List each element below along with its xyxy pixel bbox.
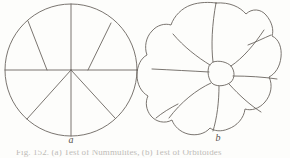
panel-b-suture-upper-left bbox=[173, 34, 210, 65]
panel-b-suture-lower-left bbox=[169, 83, 211, 118]
figure-page: a b Fig. 152. (a) Test of Nummulites, (b… bbox=[0, 0, 290, 158]
panel-b-suture-left bbox=[152, 69, 209, 72]
panel-a-drawing bbox=[5, 4, 137, 136]
panel-b-suture-bottom bbox=[213, 86, 219, 131]
panel-a-suture-lower-right bbox=[71, 70, 115, 118]
panel-a-label: a bbox=[61, 134, 81, 145]
panel-b-drawing bbox=[137, 2, 281, 134]
panel-b-suture-top bbox=[212, 3, 216, 62]
panel-b-label: b bbox=[208, 132, 228, 143]
figure-illustration bbox=[0, 0, 290, 158]
caption-clip: Fig. 152. (a) Test of Nummulites, (b) Te… bbox=[0, 150, 290, 158]
panel-b-suture-upper-right bbox=[231, 30, 264, 66]
panel-b-central-chamber bbox=[208, 61, 234, 86]
panel-a-suture-lower-left bbox=[27, 70, 71, 119]
panel-a-suture-upper-left bbox=[28, 21, 47, 70]
panel-a-suture-upper-right bbox=[88, 23, 111, 70]
panel-b-outline bbox=[137, 2, 281, 134]
figure-caption: Fig. 152. (a) Test of Nummulites, (b) Te… bbox=[16, 150, 278, 157]
panel-b-suture-lower-right bbox=[229, 84, 261, 112]
